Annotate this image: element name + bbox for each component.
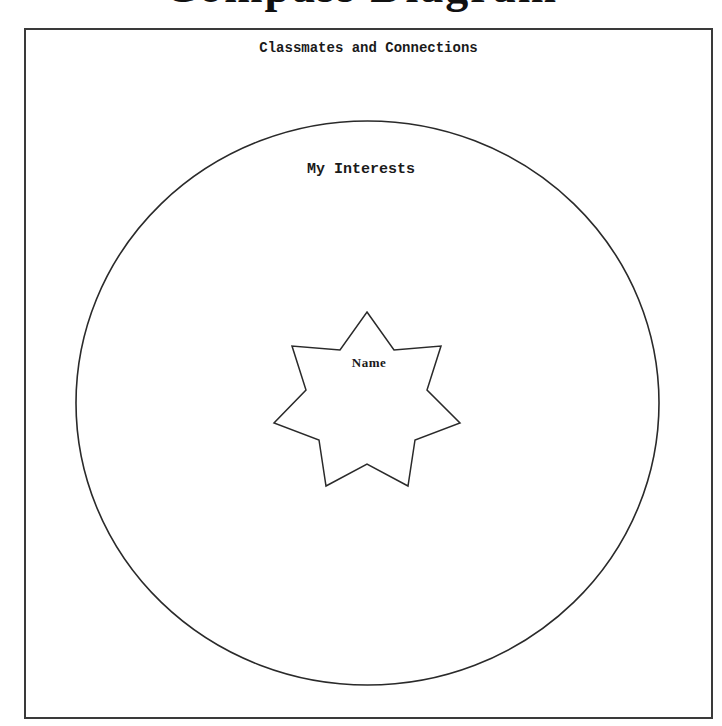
interests-label: My Interests — [0, 161, 722, 178]
name-label: Name — [0, 355, 722, 371]
name-star[interactable] — [274, 312, 460, 486]
